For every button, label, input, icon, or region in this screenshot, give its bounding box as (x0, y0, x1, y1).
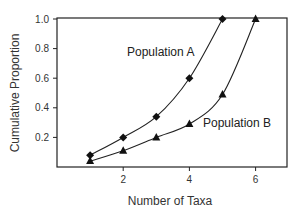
series-label-a: Population A (127, 45, 194, 59)
y-tick-label: 0.8 (35, 43, 49, 54)
series-markers (86, 15, 260, 165)
x-tick-label: 2 (120, 174, 126, 185)
y-tick-label: 0.2 (35, 132, 49, 143)
series-label-b: Population B (203, 116, 271, 130)
x-axis: 246 (120, 167, 258, 185)
triangle-marker (219, 90, 227, 98)
y-axis: 0.20.40.60.81.0 (35, 14, 57, 143)
y-tick-label: 1.0 (35, 14, 49, 25)
diamond-marker (219, 15, 227, 23)
plot-frame (57, 18, 287, 167)
y-axis-title: Cumulative Proportion (8, 34, 22, 153)
series-lines (90, 19, 256, 161)
chart: 0.20.40.60.81.0 246 Number of Taxa Cumul… (0, 0, 298, 213)
series-line-b (90, 19, 256, 161)
x-tick-label: 4 (187, 174, 193, 185)
diamond-marker (185, 74, 193, 82)
diamond-marker (119, 133, 127, 141)
y-tick-label: 0.4 (35, 102, 49, 113)
triangle-marker (185, 120, 193, 128)
x-tick-label: 6 (253, 174, 259, 185)
y-tick-label: 0.6 (35, 73, 49, 84)
x-axis-title: Number of Taxa (128, 194, 213, 208)
